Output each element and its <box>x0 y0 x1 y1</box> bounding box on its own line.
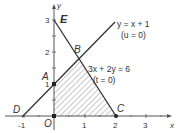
x-axis-label: x <box>169 121 175 130</box>
equation-label-u: y = x + 1 <box>117 19 150 29</box>
y-axis-label: y <box>56 1 62 10</box>
point-C-marker <box>114 114 118 118</box>
x-tick-label: 1 <box>82 121 87 130</box>
point-C-label: C <box>117 103 125 114</box>
x-tick-label: 3 <box>143 121 148 130</box>
point-O-label: O <box>44 118 52 129</box>
y-axis-arrow-icon <box>52 4 56 9</box>
y-tick-label: 3 <box>45 16 50 25</box>
x-axis-arrow-icon <box>167 114 172 118</box>
point-A-label: A <box>41 71 49 82</box>
point-A-marker <box>52 82 56 86</box>
constraint-label-u: (u = 0) <box>121 30 146 40</box>
y-tick-label: 2 <box>45 48 50 57</box>
constraint-label-t: (t = 0) <box>93 75 116 85</box>
x-tick-label: 2 <box>113 121 118 130</box>
diagram-canvas: -1 1 2 3 1 2 3 x y O A B C D E y = x + 1… <box>0 0 176 133</box>
equation-label-t: 3x + 2y = 6 <box>88 64 130 74</box>
point-E-label: E <box>60 13 68 25</box>
x-tick-label: -1 <box>18 121 26 130</box>
point-B-label: B <box>74 44 81 55</box>
point-O-marker <box>52 114 56 118</box>
point-D-label: D <box>13 104 20 115</box>
